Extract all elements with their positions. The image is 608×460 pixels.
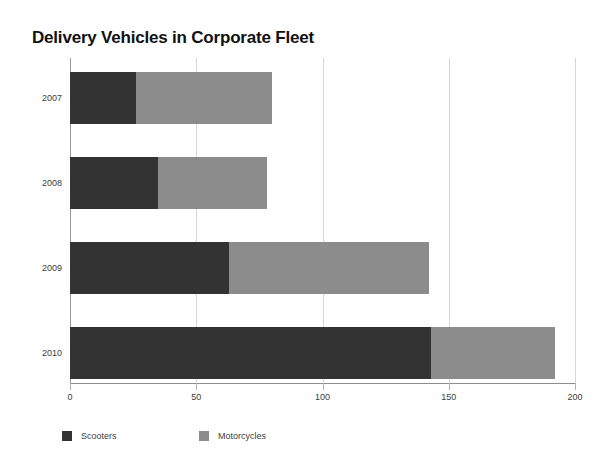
x-tick-label: 100 — [315, 392, 330, 402]
x-tick-label: 50 — [191, 392, 201, 402]
legend-swatch-scooters — [62, 431, 72, 441]
tick-mark-50 — [196, 383, 197, 390]
legend-item-motorcycles[interactable]: Motorcycles — [199, 428, 266, 444]
bar-segment-motorcycles-2008 — [158, 157, 267, 209]
category-label-2010: 2010 — [18, 348, 62, 358]
chart-title: Delivery Vehicles in Corporate Fleet — [32, 28, 314, 48]
tick-mark-100 — [323, 383, 324, 390]
category-label-2007: 2007 — [18, 93, 62, 103]
tick-mark-0 — [70, 383, 71, 390]
bar-segment-motorcycles-2007 — [136, 72, 272, 124]
bar-segment-motorcycles-2009 — [229, 242, 428, 294]
category-label-2008: 2008 — [18, 178, 62, 188]
bar-segment-scooters-2009 — [70, 242, 229, 294]
bar-segment-scooters-2008 — [70, 157, 158, 209]
bar-segment-scooters-2007 — [70, 72, 136, 124]
legend-swatch-motorcycles — [199, 431, 209, 441]
x-tick-label: 200 — [567, 392, 582, 402]
legend-label: Scooters — [81, 431, 117, 441]
legend-label: Motorcycles — [218, 431, 266, 441]
plot-area — [70, 58, 575, 383]
category-label-2009: 2009 — [18, 263, 62, 273]
chart-container: Delivery Vehicles in Corporate Fleet 050… — [0, 0, 608, 460]
gridline-200 — [575, 58, 576, 383]
x-tick-label: 150 — [441, 392, 456, 402]
tick-mark-150 — [449, 383, 450, 390]
bar-segment-motorcycles-2010 — [431, 327, 555, 379]
bar-segment-scooters-2010 — [70, 327, 431, 379]
tick-mark-200 — [575, 383, 576, 390]
x-tick-label: 0 — [67, 392, 72, 402]
legend-item-scooters[interactable]: Scooters — [62, 428, 117, 444]
